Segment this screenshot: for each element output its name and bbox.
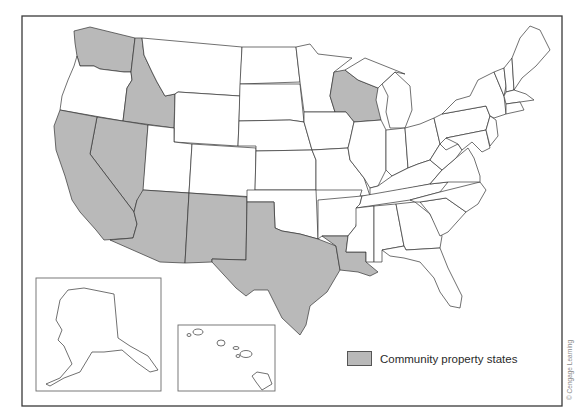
state-north-dakota	[240, 47, 300, 84]
state-south-dakota	[239, 84, 304, 122]
state-kansas	[255, 150, 316, 190]
legend-label: Community property states	[380, 353, 517, 365]
legend: Community property states	[347, 351, 517, 366]
state-indiana	[386, 128, 408, 176]
state-washington	[74, 27, 135, 72]
state-new-mexico	[185, 193, 247, 263]
state-colorado	[189, 144, 256, 197]
state-iowa	[304, 112, 354, 150]
state-wyoming	[174, 92, 240, 146]
state-maine	[512, 26, 550, 90]
state-florida	[382, 246, 462, 308]
legend-swatch-community-property	[347, 351, 372, 366]
copyright-credit: © Cengage Learning	[566, 340, 573, 400]
state-nebraska	[238, 120, 312, 151]
state-michigan	[382, 72, 412, 128]
state-connecticut-ri	[506, 102, 524, 114]
